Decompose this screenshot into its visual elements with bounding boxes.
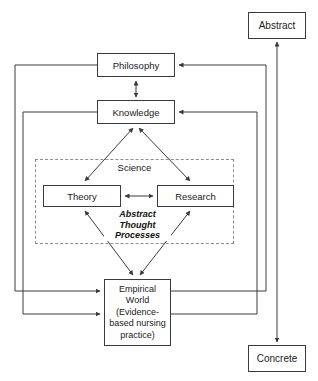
node-empirical-world[interactable]: Empirical World (Evidence- based nursing…: [104, 279, 171, 346]
node-research-label: Research: [158, 191, 233, 202]
node-concrete-label: Concrete: [249, 353, 305, 364]
node-abstract-label: Abstract: [249, 20, 305, 31]
node-knowledge[interactable]: Knowledge: [97, 100, 175, 124]
node-abstract[interactable]: Abstract: [248, 12, 306, 39]
node-philosophy-label: Philosophy: [98, 60, 174, 71]
science-group-label: Science: [35, 162, 234, 173]
node-philosophy[interactable]: Philosophy: [97, 53, 175, 77]
node-concrete[interactable]: Concrete: [248, 345, 306, 372]
diagram-canvas: Science Abstract Philosophy Knowledge Th…: [0, 0, 318, 381]
abstract-thought-processes-label: Abstract Thought Processes: [104, 209, 171, 241]
node-theory[interactable]: Theory: [43, 185, 121, 207]
node-empirical-world-label: Empirical World (Evidence- based nursing…: [105, 284, 170, 342]
node-research[interactable]: Research: [157, 185, 234, 207]
node-theory-label: Theory: [44, 191, 120, 202]
node-knowledge-label: Knowledge: [98, 107, 174, 118]
